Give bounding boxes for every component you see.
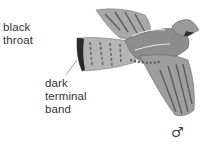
label-line: black — [3, 21, 33, 34]
label-dark-terminal-band: dark terminal band — [45, 77, 87, 116]
label-black-throat: black throat — [3, 21, 33, 47]
label-line: terminal — [45, 90, 87, 103]
leader-line-band — [66, 60, 77, 75]
label-line: dark — [45, 77, 87, 90]
label-line: band — [45, 103, 87, 116]
label-line: throat — [3, 34, 33, 47]
male-symbol-icon: ♂ — [171, 124, 184, 140]
